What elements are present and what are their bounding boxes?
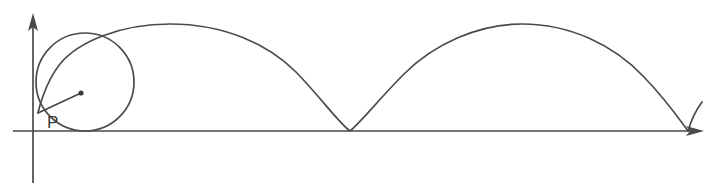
cycloid-curve	[38, 24, 688, 131]
cycloid-figure: P	[0, 0, 710, 183]
cycloid-partial-arch	[688, 102, 702, 131]
point-p-label: P	[47, 113, 58, 132]
cycloid-diagram-svg: P	[0, 0, 710, 183]
radius-segment	[38, 93, 81, 113]
circle-center-dot	[78, 90, 83, 95]
